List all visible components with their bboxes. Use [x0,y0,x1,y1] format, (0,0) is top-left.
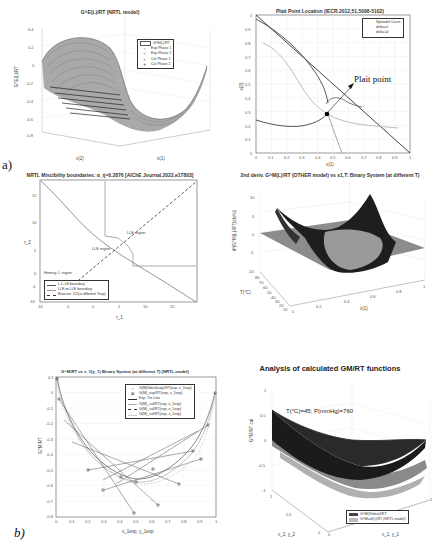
y-tick: 0.7 [245,55,251,60]
z-tick: 0 [264,438,266,443]
y-tick: -0.7 [46,499,53,504]
y-tick: -0.4 [46,452,53,457]
y-axis-label: x_2, y_2 [278,532,295,537]
x-tick: 0.5 [133,519,139,524]
y-tick: 0.5 [245,82,251,87]
panel-plait-point: Plait Point Location (IECR.2012,51,5098-… [220,0,440,160]
x-tick: 0.3 [299,155,305,160]
z-axis-label: G^M/RT cal [249,419,254,442]
legend-item: ✳Cal Phase 2 [140,62,171,67]
z-tick: -1 [262,488,266,493]
x-axis-label: x_1exp, y_1exp [122,529,154,534]
region-label: LLE region [92,247,110,251]
y-tick: 10 [32,220,36,225]
z-tick: 1 [264,388,266,393]
y-tick: -0.2 [46,421,53,426]
y-tick: 1 [250,13,252,18]
z-tick: -0.8 [26,133,33,138]
z-tick: 0.5 [260,413,266,418]
t-tick: 10 [283,307,287,312]
x-tick: 0.2 [284,155,290,160]
conditions-annotation: T(°C)=45; P(mmHg)=760 [286,408,353,414]
x-tick: 0.8 [376,155,382,160]
y-tick: 0 [34,271,36,276]
plait-point-marker [325,112,330,117]
t-axis-label: T(°C) [240,290,251,295]
x-tick: 0.6 [149,519,155,524]
x-tick: 0.3 [101,519,107,524]
panel-ge-surface: G^E(L)/RT (NRTL model) [0,0,220,140]
z-tick: -5 [250,250,254,255]
legend: L-L-LE boundary LLE-m-LLE boundary Bisec… [44,280,109,300]
z-axis-label: G^E(L)/RT [14,66,19,87]
y-tick: 0.5 [286,512,292,517]
z-tick: 5 [252,214,254,219]
z-tick: -0.5 [258,463,265,468]
surface-plot [0,0,220,140]
line-plot [0,170,220,310]
y-tick: 0.8 [245,41,251,46]
y-axis-label: x(2) [239,83,244,91]
legend-item: ·delta'=0 [365,30,401,35]
z-tick: -0.6 [26,117,33,122]
y-tick: -0.8 [46,514,53,519]
x-tick: 0.6 [370,294,376,299]
y-tick: 0 [318,530,320,535]
y-tick: 0.9 [245,27,251,32]
z-tick: 0 [252,232,254,237]
z-tick: -0.2 [26,81,33,86]
y-axis-label: x(2) [76,156,84,161]
legend-item: G^Mcal(L)/RT (NRTL model) [349,517,406,522]
y-tick: 0.1 [48,375,54,380]
x-tick: 1 [423,284,425,289]
y-tick: -10 [29,299,35,304]
x-tick: 0.5 [330,155,336,160]
y-tick: 1 [270,494,272,499]
legend: ○G(M)/Ideal(exp)/RT(exp, x_1exp) ⊠G(M)_e… [125,384,195,419]
y-axis-label: τ_2 [24,240,31,245]
legend: G^M(V/ideal)/RT G^Mcal(L)/RT (NRTL model… [346,510,409,524]
z-axis-label: d²(G^M(L)/RT)/dx²x1 [232,210,237,251]
y-tick: 5 [34,248,36,253]
x-tick: 0.7 [165,519,171,524]
z-tick: 0.2 [28,45,34,50]
legend: G^E(L)/RT ○Exp Phase 1 ○Exp Phase 2 ×Cal… [137,39,174,69]
region-label: LLE region [127,231,145,235]
panel-2nd-derivative: 2nd deriv. G^M(L)/RT (OTHER model) vs x1… [220,170,440,345]
x-tick: 0 [92,304,94,309]
y-tick: 0.1 [245,137,251,142]
legend-item: G(M)_cal/RT(exp, x_1exp) [128,412,192,417]
x-tick: 0.1 [69,519,75,524]
panel-letter-b: b) [14,525,25,541]
x-axis-label: x(1) [360,306,368,311]
x-tick: 0 [255,155,257,160]
y-tick: -0.3 [46,437,53,442]
x-tick: 0.8 [396,289,402,294]
x-tick: 0 [292,309,294,314]
x-axis-label: x(1) [157,156,165,161]
z-tick: -0.4 [26,99,33,104]
y-tick: 15 [32,193,36,198]
y-tick: 0.4 [245,96,251,101]
y-axis-label: G^M/RT [38,437,43,454]
line-plot [220,0,440,160]
z-tick: 10 [250,195,254,200]
x-tick: 0.8 [181,519,187,524]
x-tick: 0.2 [316,304,322,309]
region-label: Homog. L region [44,271,72,275]
y-tick: 0 [250,151,252,156]
x-tick: 0.4 [117,519,123,524]
y-tick: 0.2 [245,124,251,129]
x-tick: 0.4 [344,299,350,304]
x-tick: 0.9 [392,155,398,160]
x-tick: -10 [37,304,43,309]
x-tick: 1 [215,519,217,524]
y-tick: 0.6 [245,68,251,73]
x-axis-label: x(1) [326,162,334,167]
y-tick: 0 [51,390,53,395]
z-tick: -10 [248,269,254,274]
x-tick: -5 [66,304,70,309]
x-tick: 1 [430,497,432,502]
x-axis-label: τ_1 [116,315,123,320]
x-tick: 5 [118,304,120,309]
